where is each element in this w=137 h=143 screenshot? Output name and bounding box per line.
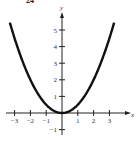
y-tick-label: 1 xyxy=(54,93,58,101)
x-tick-label: 1 xyxy=(76,117,80,125)
y-tick-label: 3 xyxy=(54,60,58,68)
y-axis-label: y xyxy=(59,4,64,12)
y-tick-label: 2 xyxy=(54,76,58,84)
parabola-chart: −3−2−1123 −112345 x y xyxy=(0,0,137,143)
x-tick-label: 2 xyxy=(92,117,96,125)
x-tick-label: −1 xyxy=(42,117,50,125)
x-tick-label: −3 xyxy=(11,117,19,125)
y-tick-label: −1 xyxy=(50,126,58,134)
y-tick-label: 5 xyxy=(54,27,58,35)
y-axis-arrow-icon xyxy=(60,12,64,18)
x-axis-label: x xyxy=(130,111,135,119)
x-tick-label: −2 xyxy=(27,117,35,125)
y-ticks: −112345 xyxy=(50,27,65,135)
x-tick-label: 3 xyxy=(108,117,112,125)
y-tick-label: 4 xyxy=(54,43,58,51)
